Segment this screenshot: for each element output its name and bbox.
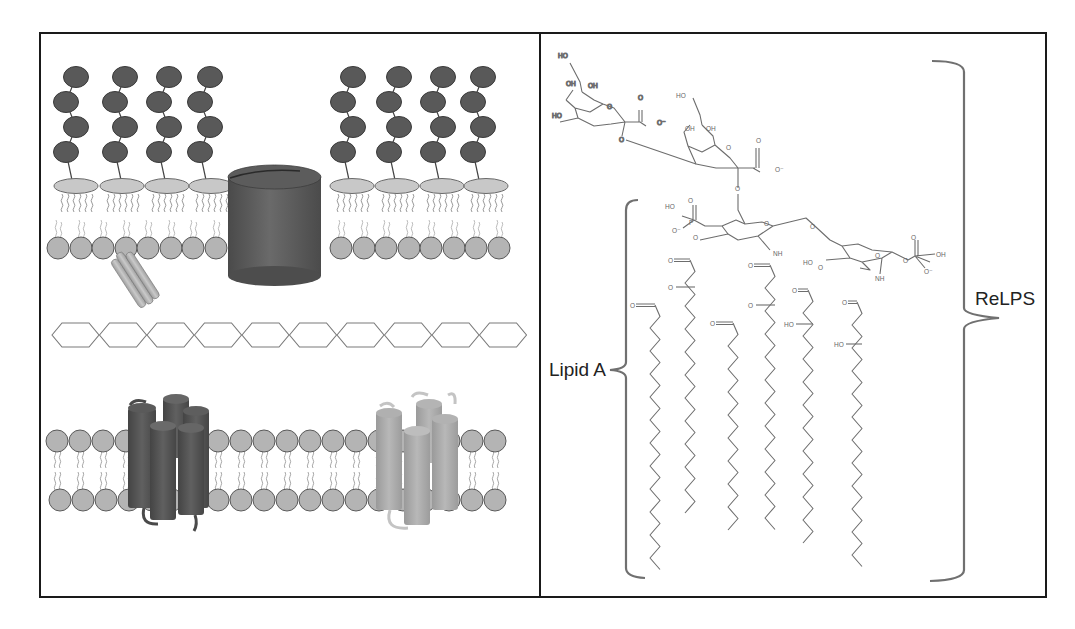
lipid-tail	[439, 194, 441, 212]
atom-label: HO	[676, 92, 686, 99]
phospholipid-headgroup	[299, 430, 321, 452]
atom-label: P	[689, 219, 693, 226]
atom-label: O	[911, 234, 916, 241]
lps-sugar-bead	[147, 142, 172, 163]
lps-sugar-bead	[461, 92, 486, 113]
kdo-sugar-2: HO OH OH O O O⁻ O	[676, 92, 784, 192]
lipid-tail	[202, 194, 204, 212]
lps-sugar-bead	[341, 117, 366, 138]
atom-label: OH	[685, 125, 695, 132]
lipid-tail	[489, 194, 491, 212]
atom-label: O	[818, 264, 823, 271]
lps-sugar-bead	[157, 67, 182, 88]
lps-sugar-bead	[471, 117, 496, 138]
lps-sugar-bead	[387, 67, 412, 88]
lipid-tail	[335, 472, 336, 490]
atom-label: HO	[803, 259, 813, 266]
phospholipid-headgroup	[47, 237, 69, 259]
lps-sugar-bead	[113, 67, 138, 88]
lps-sugar-bead	[188, 92, 213, 113]
lipid-tail	[382, 194, 384, 212]
lipid-tail	[474, 451, 475, 468]
lipid-tail	[91, 194, 93, 212]
porin-channel	[228, 165, 321, 286]
lps-sugar-bead	[387, 117, 412, 138]
lipid-tail	[105, 451, 106, 468]
lipid-tail	[492, 451, 493, 468]
lipid-tail	[312, 472, 313, 490]
lipid-tail	[77, 451, 78, 468]
phospholipid-headgroup	[182, 237, 204, 259]
atom-label: O	[792, 287, 797, 294]
atom-label: OH	[588, 82, 598, 89]
lps-sugar-bead	[64, 117, 89, 138]
lps-sugar-bead	[431, 67, 456, 88]
peptidoglycan-hexagon	[480, 323, 527, 347]
lipid-tail	[451, 194, 453, 212]
acyl-chain	[728, 323, 738, 530]
lipid-tail	[215, 472, 216, 490]
lipid-tail	[164, 194, 166, 212]
lps-sugar-bead	[54, 92, 79, 113]
lipid-a-headgroup	[464, 179, 508, 194]
phospholipid-headgroup	[484, 489, 506, 511]
lps-sugar-bead	[54, 142, 79, 163]
atom-label: HO	[552, 112, 562, 119]
lipid-tail	[388, 194, 390, 212]
atom-label: OH	[936, 251, 946, 258]
lipid-tail	[343, 194, 345, 212]
phospholipid-headgroup	[345, 489, 367, 511]
carbonyl-bond	[754, 264, 770, 267]
peptidoglycan-hexagon	[100, 323, 147, 347]
lipid-tail	[220, 194, 222, 212]
lipid-tail	[220, 451, 221, 468]
lipid-tail	[412, 194, 414, 212]
lipid-tail	[59, 472, 60, 490]
peptidoglycan-hexagon	[195, 323, 242, 347]
lipid-tail	[427, 194, 429, 212]
phospholipid-headgroup	[484, 430, 506, 452]
lipid-tail	[469, 451, 470, 468]
lipid-a-headgroup	[330, 179, 374, 194]
atom-label: HO	[784, 321, 794, 328]
peptidoglycan-hexagon	[385, 323, 432, 347]
lipid-tail	[176, 194, 178, 212]
peptidoglycan-hexagon	[432, 323, 479, 347]
left-panel-cell-envelope	[46, 67, 527, 532]
phospholipid-headgroup	[461, 489, 483, 511]
lipid-tail	[261, 451, 262, 468]
lipid-tail	[85, 194, 87, 212]
peptidoglycan-hexagon	[147, 323, 194, 347]
lipid-tail	[355, 194, 357, 212]
lipid-tail	[284, 472, 285, 490]
lipid-tail	[82, 451, 83, 468]
atom-label: O	[693, 234, 698, 241]
lipid-tail	[67, 194, 69, 212]
lipid-tail	[123, 472, 124, 490]
atom-label: O⁻	[657, 119, 666, 126]
lipid-tail	[497, 451, 498, 468]
relps-bracket	[930, 61, 999, 581]
atom-label: O	[735, 185, 740, 192]
peptidoglycan-hexagon	[242, 323, 289, 347]
carbonyl-bond	[798, 289, 808, 292]
lps-sugar-bead	[157, 117, 182, 138]
lipid-tail	[182, 194, 184, 212]
phospholipid-headgroup	[92, 430, 114, 452]
atom-label: O	[630, 302, 635, 309]
lipid-a-label: Lipid A	[549, 359, 606, 380]
lipid-tail	[214, 194, 216, 212]
lipid-a-headgroup	[145, 179, 189, 194]
lipid-tail	[77, 472, 78, 490]
lipid-tail	[170, 194, 172, 212]
phospholipid-headgroup	[49, 489, 71, 511]
lipid-tail	[501, 194, 503, 212]
phospholipid-headgroup	[488, 237, 510, 259]
atom-label: HO	[558, 52, 568, 59]
phospholipid-headgroup	[420, 237, 442, 259]
lps-sugar-bead	[103, 142, 128, 163]
lipid-tail	[123, 451, 124, 468]
phospholipid-headgroup	[92, 237, 114, 259]
lipid-a-headgroup	[54, 179, 98, 194]
lipid-tail	[82, 472, 83, 490]
